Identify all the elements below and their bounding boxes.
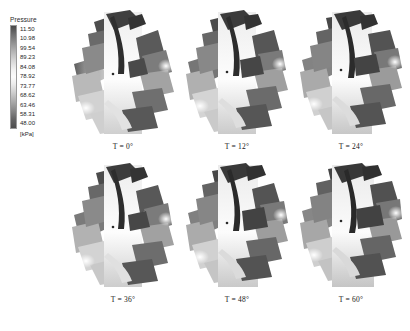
legend-tick: 10.98 bbox=[20, 35, 35, 43]
legend-title: Pressure bbox=[10, 16, 64, 23]
legend-tick: 48.00 bbox=[20, 120, 35, 128]
panel-cell: T = 12° bbox=[180, 4, 294, 151]
pressure-contour-render bbox=[184, 4, 290, 139]
panel-caption: T = 24° bbox=[339, 142, 363, 151]
pressure-contour-render bbox=[184, 157, 290, 292]
panel-caption: T = 60° bbox=[339, 295, 363, 304]
legend-units: [kPa] bbox=[20, 131, 64, 137]
legend-tick: 73.77 bbox=[20, 83, 35, 91]
legend-tick: 89.23 bbox=[20, 54, 35, 62]
legend-tick: 78.92 bbox=[20, 73, 35, 81]
panel-cell: T = 60° bbox=[294, 157, 408, 304]
pressure-contour-render bbox=[298, 4, 404, 139]
legend-body: 11.50 10.98 99.54 89.23 84.08 78.92 73.7… bbox=[6, 25, 64, 129]
pressure-legend: Pressure 11.50 10.98 99.54 89.23 84.08 7… bbox=[6, 16, 64, 137]
pressure-contour-render bbox=[70, 157, 176, 292]
panel-cell: T = 36° bbox=[66, 157, 180, 304]
pressure-contour-render bbox=[298, 157, 404, 292]
legend-tick: 63.46 bbox=[20, 102, 35, 110]
colorbar-gradient bbox=[10, 25, 17, 129]
legend-tick: 84.08 bbox=[20, 64, 35, 72]
panel-cell: T = 48° bbox=[180, 157, 294, 304]
panel-grid: T = 0° bbox=[66, 4, 410, 304]
legend-tick: 99.54 bbox=[20, 45, 35, 53]
legend-tick: 11.50 bbox=[20, 26, 35, 34]
legend-tick: 58.31 bbox=[20, 111, 35, 119]
panel-caption: T = 0° bbox=[113, 142, 133, 151]
legend-tick-list: 11.50 10.98 99.54 89.23 84.08 78.92 73.7… bbox=[20, 25, 35, 129]
panel-caption: T = 48° bbox=[225, 295, 249, 304]
pressure-contour-render bbox=[70, 4, 176, 139]
panel-caption: T = 12° bbox=[225, 142, 249, 151]
panel-cell: T = 24° bbox=[294, 4, 408, 151]
panel-cell: T = 0° bbox=[66, 4, 180, 151]
panel-caption: T = 36° bbox=[111, 295, 135, 304]
legend-tick: 68.62 bbox=[20, 92, 35, 100]
panel-row-top: T = 0° bbox=[66, 4, 410, 151]
panel-row-bottom: T = 36° bbox=[66, 157, 410, 304]
